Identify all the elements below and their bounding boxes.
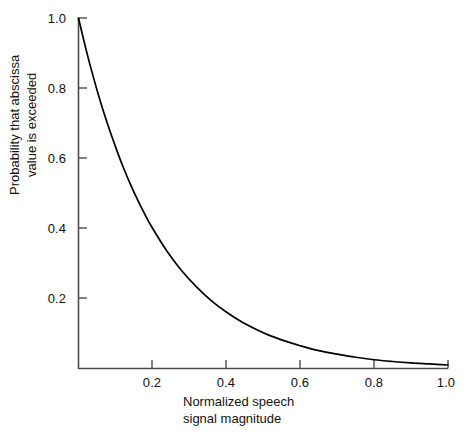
x-tick-label-1.0: 1.0 xyxy=(437,375,455,390)
x-tick-label-0.8: 0.8 xyxy=(365,375,383,390)
chart-figure: 1.0 0.8 0.6 0.4 0.2 0.2 0.4 0.6 0.8 1.0 … xyxy=(0,0,466,437)
x-tick-label-0.2: 0.2 xyxy=(143,375,161,390)
x-axis-title-line-1: Normalized speech xyxy=(183,393,294,410)
y-tick-marks xyxy=(79,18,88,298)
x-tick-marks xyxy=(152,360,448,369)
x-tick-label-0.6: 0.6 xyxy=(291,375,309,390)
data-curve-exceedance-probability xyxy=(79,18,449,365)
y-tick-label-0.4: 0.4 xyxy=(18,221,66,236)
plot-area xyxy=(0,0,466,437)
y-tick-label-0.2: 0.2 xyxy=(18,291,66,306)
x-tick-label-0.4: 0.4 xyxy=(217,375,235,390)
y-tick-label-1.0: 1.0 xyxy=(18,11,66,26)
y-axis-title: Probability that abscissa value is excee… xyxy=(6,55,40,195)
y-axis-title-line-1: Probability that abscissa xyxy=(6,55,23,195)
x-axis-title-line-2: signal magnitude xyxy=(183,410,294,427)
y-axis-title-line-2: value is exceeded xyxy=(23,55,40,195)
x-axis-title: Normalized speech signal magnitude xyxy=(183,393,294,427)
